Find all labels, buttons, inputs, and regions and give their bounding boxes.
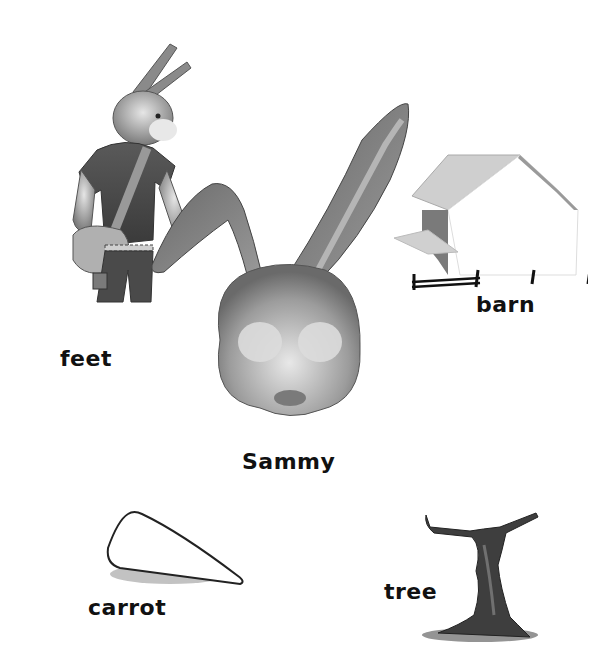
label-barn: barn <box>476 292 535 317</box>
label-sammy: Sammy <box>242 449 335 474</box>
carrot-illustration <box>100 508 250 588</box>
tree-illustration <box>410 505 550 645</box>
rabbit-head-illustration <box>150 100 420 430</box>
label-feet: feet <box>60 346 112 371</box>
label-tree: tree <box>384 579 437 604</box>
label-carrot: carrot <box>88 595 166 620</box>
barn-illustration <box>388 150 588 290</box>
